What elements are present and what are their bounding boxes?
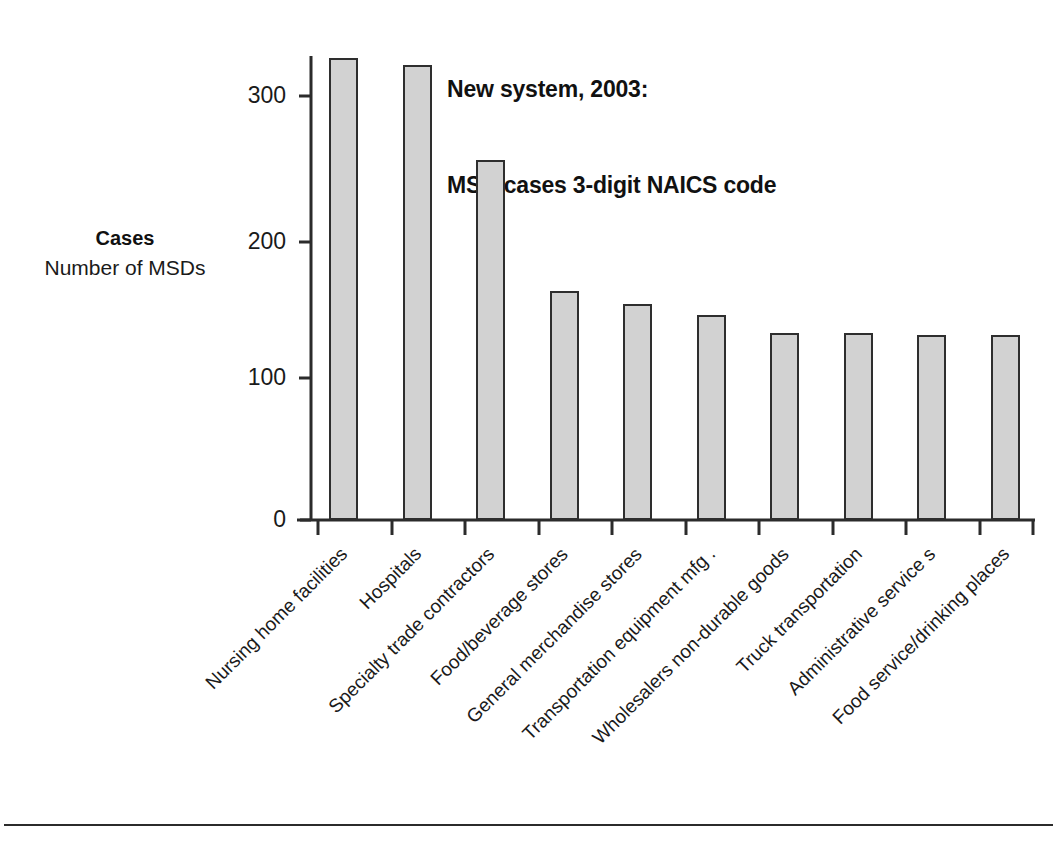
chart-axes bbox=[0, 0, 1061, 560]
bar bbox=[770, 333, 799, 520]
bar bbox=[329, 58, 358, 520]
x-axis-category-label: Administrative service s bbox=[784, 544, 939, 699]
bottom-divider bbox=[4, 824, 1053, 826]
x-axis-category-labels: Nursing home facilitiesHospitalsSpecialt… bbox=[0, 520, 1061, 820]
y-tick-label-300: 300 bbox=[216, 84, 286, 107]
bar bbox=[550, 291, 579, 520]
bar bbox=[844, 333, 873, 520]
y-tick-label-100: 100 bbox=[216, 366, 286, 389]
bar bbox=[403, 65, 432, 520]
x-axis-category-label: Nursing home facilities bbox=[202, 544, 351, 693]
x-axis-category-label: Food/beverage stores bbox=[427, 544, 571, 688]
plot-area: 0 100 200 300 bbox=[0, 0, 1061, 560]
x-axis-category-label: Hospitals bbox=[356, 544, 425, 613]
bar bbox=[991, 335, 1020, 520]
bar bbox=[476, 160, 505, 520]
x-axis-category-label: Truck transportation bbox=[733, 544, 865, 676]
y-tick-label-200: 200 bbox=[216, 230, 286, 253]
bar bbox=[697, 315, 726, 520]
bar bbox=[917, 335, 946, 520]
chart-figure: New system, 2003: MSD cases 3-digit NAIC… bbox=[0, 0, 1061, 857]
bar bbox=[623, 304, 652, 520]
